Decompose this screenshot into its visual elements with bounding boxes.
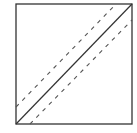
diagram-canvas [0,0,137,133]
